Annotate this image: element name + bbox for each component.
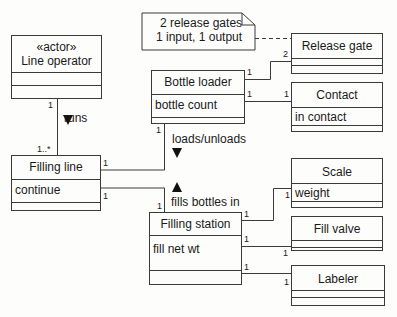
class-name: Filling station [150, 213, 241, 235]
operations-section [152, 117, 244, 124]
mult-labeler-from: 1 [244, 262, 249, 272]
association-label-runs: runs [64, 112, 87, 125]
attributes-section [292, 290, 384, 297]
attributes-section [12, 72, 101, 85]
class-release-gate[interactable]: Release gate [291, 33, 383, 74]
operations-section [292, 201, 382, 207]
class-name: Fill valve [292, 217, 382, 240]
fills-direction-icon [172, 182, 182, 192]
loads-direction-icon [172, 148, 182, 158]
class-labeler[interactable]: Labeler [291, 265, 385, 306]
class-name: Filling line [12, 156, 100, 179]
class-name: Contact [292, 83, 382, 107]
note-line-1: 2 release gates [160, 17, 242, 30]
attribute-fill-net-wt: fill net wt [150, 235, 241, 270]
attribute-weight: weight [292, 183, 382, 201]
class-contact[interactable]: Contact in contact [291, 82, 383, 132]
attribute-in-contact: in contact [292, 107, 382, 125]
association-label-fills: fills bottles in [171, 196, 240, 209]
mult-fills-to: 1 [103, 191, 108, 201]
class-name: Bottle loader [152, 71, 244, 94]
mult-scale-to: 1 [285, 190, 290, 200]
class-name: Release gate [292, 34, 382, 58]
stereotype: «actor» [12, 40, 101, 54]
class-name: Scale [292, 159, 382, 183]
mult-gate-to: 2 [283, 49, 288, 59]
class-filling-line[interactable]: Filling line continue [11, 155, 101, 211]
class-line-operator[interactable]: «actor» Line operator [11, 35, 102, 99]
attribute-bottle-count: bottle count [152, 94, 244, 117]
note-line-2: 1 input, 1 output [156, 31, 242, 44]
operations-section [292, 125, 382, 132]
mult-runs-from: 1 [48, 100, 53, 110]
attributes-section [292, 240, 382, 247]
mult-scale-from: 1 [244, 209, 249, 219]
operations-section [12, 202, 100, 211]
mult-gate-from: 1 [247, 67, 252, 77]
class-scale[interactable]: Scale weight [291, 158, 383, 208]
mult-labeler-to: 1 [284, 277, 289, 287]
operations-section [292, 247, 382, 250]
class-filling-station[interactable]: Filling station fill net wt [149, 212, 242, 285]
class-name: Labeler [292, 266, 384, 290]
mult-valve-from: 1 [244, 234, 249, 244]
operations-section [292, 297, 384, 305]
operations-section [12, 85, 101, 98]
operations-section [292, 65, 382, 73]
mult-valve-to: 1 [283, 248, 288, 258]
association-label-loads: loads/unloads [172, 133, 246, 146]
mult-fills-from: 1 [157, 201, 162, 211]
mult-contact-from: 1 [247, 89, 252, 99]
mult-contact-to: 1 [284, 89, 289, 99]
class-bottle-loader[interactable]: Bottle loader bottle count [151, 70, 245, 124]
mult-loads-from: 1 [156, 125, 161, 135]
mult-runs-to: 1..* [37, 144, 51, 154]
class-name: Line operator [12, 54, 101, 68]
attributes-section [292, 58, 382, 65]
mult-loads-to: 1 [103, 158, 108, 168]
operations-section [150, 270, 241, 285]
attribute-continue: continue [12, 179, 100, 202]
class-fill-valve[interactable]: Fill valve [291, 216, 383, 251]
